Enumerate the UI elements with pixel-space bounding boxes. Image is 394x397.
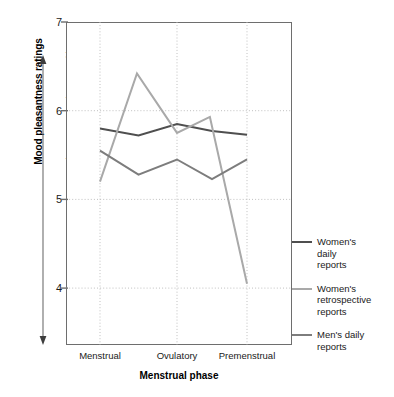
chart-figure: Mood pleasantness ratings negative —— ne… bbox=[0, 0, 394, 397]
legend-label-1: Women's retrospective reports bbox=[317, 283, 371, 318]
x-tick-label-ovulatory: Ovulatory bbox=[157, 350, 198, 361]
series-line-1 bbox=[100, 73, 247, 283]
legend-entry-1: Women's retrospective reports bbox=[292, 283, 394, 318]
y-axis-tick-marks bbox=[59, 0, 68, 397]
chart-legend: Women's daily reportsWomen's retrospecti… bbox=[292, 236, 394, 364]
x-tick-label-premenstrual: Premenstrual bbox=[219, 350, 276, 361]
plot-canvas bbox=[66, 22, 292, 345]
legend-entry-2: Men's daily reports bbox=[292, 329, 394, 352]
legend-label-2: Men's daily reports bbox=[317, 329, 364, 352]
legend-entry-0: Women's daily reports bbox=[292, 236, 394, 271]
series-line-0 bbox=[100, 124, 247, 136]
legend-label-0: Women's daily reports bbox=[317, 236, 356, 271]
legend-swatch-line-icon bbox=[292, 334, 312, 336]
x-axis-title: Menstrual phase bbox=[66, 370, 292, 381]
x-tick-label-menstrual: Menstrual bbox=[79, 350, 121, 361]
series-line-2 bbox=[100, 151, 247, 179]
legend-swatch-line-icon bbox=[292, 288, 312, 290]
legend-swatch-line-icon bbox=[292, 241, 312, 243]
